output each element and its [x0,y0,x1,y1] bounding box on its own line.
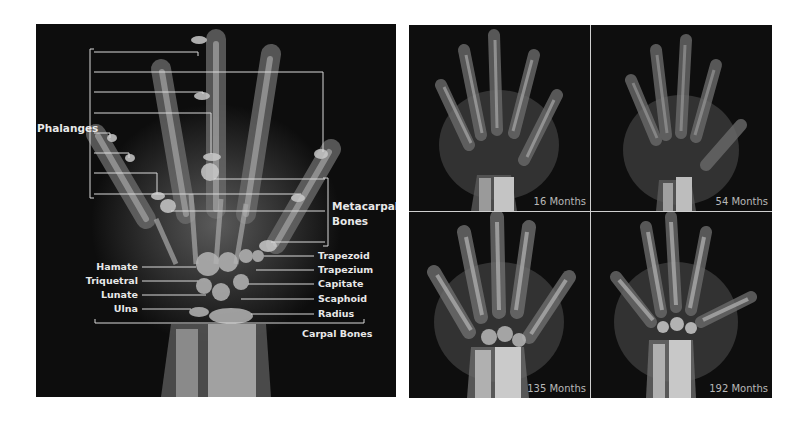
age-comparison-grid: 16 Months 54 Months [409,25,772,398]
carpal-bones-label: Carpal Bones [302,329,372,339]
annotated-hand-xray-panel: Phalanges Metacarpal Bones Hamate Trique… [36,24,396,397]
hand-xray-image [591,212,772,398]
triquetral-label: Triquetral [76,276,138,286]
age-label-192-months: 192 Months [709,383,768,394]
age-label-54-months: 54 Months [716,196,768,207]
capitate-label: Capitate [318,279,363,289]
lunate-label: Lunate [76,290,138,300]
trapezium-label: Trapezium [318,265,373,275]
scaphoid-label: Scaphoid [318,294,367,304]
metacarpal-label-line2: Bones [332,216,368,227]
hand-xray-image [409,25,590,211]
radius-label: Radius [318,309,354,319]
hamate-label: Hamate [76,262,138,272]
trapezoid-label: Trapezoid [318,251,370,261]
xray-192-months: 192 Months [591,212,772,398]
xray-54-months: 54 Months [591,25,772,211]
xray-135-months: 135 Months [409,212,590,398]
xray-16-months: 16 Months [409,25,590,211]
metacarpal-label-line1: Metacarpal [332,201,396,212]
hand-xray-image [409,212,590,398]
age-label-16-months: 16 Months [534,196,586,207]
ulna-label: Ulna [76,304,138,314]
hand-xray-image [591,25,772,211]
age-label-135-months: 135 Months [527,383,586,394]
horizontal-divider [409,211,772,212]
phalanges-label: Phalanges [37,123,98,134]
